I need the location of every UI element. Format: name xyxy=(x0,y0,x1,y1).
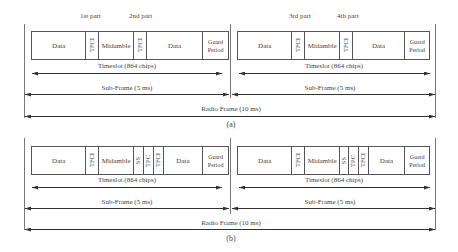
data-field: Data xyxy=(238,147,292,174)
timeslot-a-right: Data TFCI Midamble TFCI Data Guard Perio… xyxy=(237,31,430,60)
caption-a: (a) xyxy=(221,120,241,129)
data-field: Data xyxy=(369,147,406,174)
tpc-field: TPC xyxy=(349,155,357,167)
midamble-field: Midamble xyxy=(99,32,134,59)
timeslot-b-right: Data TFCI Midamble SS TPC TFCI Data Guar… xyxy=(237,146,430,175)
tfci-field: TFCI xyxy=(294,153,302,167)
ss-field: SS xyxy=(134,157,142,164)
ss-field: SS xyxy=(340,157,348,164)
data-field: Data xyxy=(238,32,292,59)
radio-frame-label: Radio Frame (10 ms) xyxy=(199,219,263,227)
timeslot-label: Timeslot (864 chips) xyxy=(97,62,157,70)
guard-period-field: Guard Period xyxy=(203,147,228,174)
timeslot-label: Timeslot (864 chips) xyxy=(304,62,364,70)
timeslot-label: Timeslot (864 chips) xyxy=(304,176,364,184)
midamble-field: Midamble xyxy=(99,147,134,174)
subframe-label: Sub-Frame (5 ms) xyxy=(300,84,360,92)
timeslot-a-left: Data TFCI Midamble TFCI Data Guard Perio… xyxy=(31,31,229,60)
tfci-field: TFCI xyxy=(342,38,350,52)
data-field: Data xyxy=(147,32,203,59)
tfci-field: TFCI xyxy=(154,153,162,167)
data-field: Data xyxy=(164,147,204,174)
guard-period-field: Guard Period xyxy=(405,32,429,59)
guard-period-field: Guard Period xyxy=(203,32,228,59)
tfci-field: TFCI xyxy=(136,38,144,52)
timeslot-label: Timeslot (864 chips) xyxy=(97,176,157,184)
subframe-label: Sub-Frame (5 ms) xyxy=(97,198,157,206)
midamble-field: Midamble xyxy=(305,32,340,59)
guard-period-field: Guard Period xyxy=(405,147,429,174)
part-label-3: 3rd part xyxy=(289,12,311,20)
radio-frame-label: Radio Frame (10 ms) xyxy=(199,105,263,113)
tfci-field: TFCI xyxy=(359,153,367,167)
part-label-1: 1st part xyxy=(80,12,101,20)
data-field: Data xyxy=(32,32,86,59)
data-field: Data xyxy=(353,32,405,59)
part-label-2: 2nd part xyxy=(129,12,152,20)
caption-b: (b) xyxy=(221,234,241,243)
midamble-field: Midamble xyxy=(305,147,340,174)
part-label-4: 4th part xyxy=(337,12,359,20)
tpc-field: TPC xyxy=(144,155,152,167)
tfci-field: TFCI xyxy=(88,153,96,167)
subframe-label: Sub-Frame (5 ms) xyxy=(300,198,360,206)
data-field: Data xyxy=(32,147,86,174)
tfci-field: TFCI xyxy=(294,38,302,52)
subframe-label: Sub-Frame (5 ms) xyxy=(97,84,157,92)
tfci-field: TFCI xyxy=(88,38,96,52)
timeslot-b-left: Data TFCI Midamble SS TPC TFCI Data Guar… xyxy=(31,146,229,175)
